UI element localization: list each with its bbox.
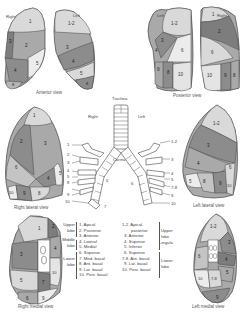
svg-text:10: 10 (52, 270, 57, 275)
posterior-view: Left Right 1-2 3 4 6 9 8 10 1 2 6 10 9 8… (121, 0, 242, 100)
legend-left-item-10: 10. Post. basal (122, 267, 155, 273)
left-lateral-lung-drawing: 1-2 3 4 5 8 9 6 10 (175, 103, 242, 215)
right-lateral-view-caption: Right lateral view (14, 205, 48, 210)
bronchus-l-3: 3 (171, 157, 173, 162)
left-lateral-view: 1-2 3 4 5 8 9 6 10 Left lateral view (175, 103, 242, 215)
legend-right-upper-lobe-2: lobe (60, 228, 75, 234)
posterior-right-label: Right (217, 13, 227, 18)
svg-text:1-2: 1-2 (213, 121, 220, 126)
bronchus-r-7: 7 (104, 204, 106, 209)
svg-text:1-2: 1-2 (68, 21, 75, 26)
posterior-left-label: Left (157, 13, 164, 18)
legend-right-middle-lobe-1: Middle (60, 237, 75, 243)
bronchus-r-6: 6 (106, 178, 108, 183)
legend-left-upper-lobe-2: lobe (161, 234, 173, 240)
svg-text:1-2: 1-2 (210, 224, 217, 229)
svg-text:10: 10 (9, 190, 14, 195)
right-lateral-view: 1 2 3 6 4 5 10 9 8 Right lateral view (0, 103, 70, 215)
bronchi-right-label: Right (88, 114, 98, 119)
bronchus-l-5: 5 (171, 177, 173, 182)
svg-text:10: 10 (198, 276, 203, 281)
legend-left-lingula: Lingula (159, 240, 173, 246)
anterior-view: Right Left 1 3 2 5 4 8 1-2 3 4 5 8 Anter… (0, 0, 121, 100)
bronchus-l-4: 4 (171, 171, 173, 176)
legend-right-middle-lobe-2: lobe (60, 243, 75, 249)
legend-left-lower-lobe-2: lobe (161, 264, 173, 270)
left-medial-lung-drawing: 1-2 3 6 4 5 10 7-8 9 (188, 212, 242, 312)
left-medial-view: 1-2 3 6 4 5 10 7-8 9 Left medial view (188, 212, 242, 312)
legend-left-lower-lobe-1: Lower (161, 258, 173, 264)
bronchus-l-9: 9 (171, 193, 173, 198)
anterior-right-label: Right (6, 14, 16, 19)
anterior-left-label: Left (73, 13, 80, 18)
svg-text:10: 10 (207, 73, 213, 78)
carina-label: Carina (113, 157, 125, 162)
trachea-label: Trachea (112, 96, 127, 101)
right-lateral-lung-drawing: 1 2 3 6 4 5 10 9 8 (0, 103, 70, 215)
legend-right-lower-lobe-2: lobe (60, 262, 75, 268)
left-lateral-view-caption: Left lateral view (193, 203, 224, 208)
svg-text:1-2: 1-2 (171, 21, 178, 26)
anterior-lungs-drawing: 1 3 2 5 4 8 1-2 3 4 5 8 (0, 0, 121, 100)
svg-text:10: 10 (227, 183, 232, 188)
legend-right-item-10: 10. Post. basal (79, 272, 107, 278)
left-medial-view-caption: Left medial view (192, 304, 224, 309)
svg-text:7-8: 7-8 (211, 276, 218, 281)
svg-text:10: 10 (178, 72, 184, 77)
bronchi-left-label: Left (138, 114, 145, 119)
legend-left-upper-lobe-1: Upper (161, 228, 173, 234)
bronchus-l-6: 6 (131, 181, 133, 186)
right-medial-view-caption: Right medial view (18, 304, 53, 309)
